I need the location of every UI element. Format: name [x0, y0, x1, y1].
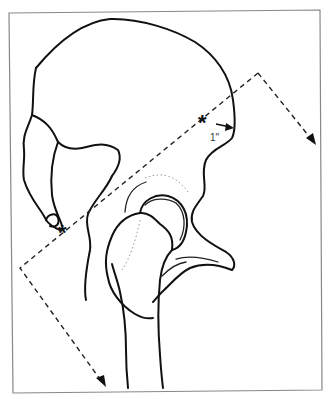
femoral-head-inner: [145, 199, 184, 240]
landmark-star-lower: *: [58, 220, 67, 245]
measurement-label: 1": [210, 132, 220, 143]
ischium-outline: [153, 265, 232, 302]
incision-dashed-branch: [258, 73, 312, 140]
obturator-line: [176, 257, 218, 262]
femoral-head-neck: [140, 213, 172, 250]
acetabulum-rim: [145, 175, 188, 192]
measurement-arrowhead: [225, 123, 234, 131]
femur-shaft-left: [112, 264, 128, 388]
sacroiliac-line: [32, 115, 120, 176]
intertrochanteric-line: [122, 220, 140, 270]
figure-frame: [9, 10, 322, 393]
anatomical-diagram: 1" * *: [0, 0, 334, 399]
landmark-star-upper: *: [198, 110, 207, 135]
acetabulum-arc: [125, 182, 146, 212]
femur-shaft-right: [159, 250, 173, 388]
arrowhead-right: [306, 133, 316, 145]
coccyx-outline: [46, 214, 59, 226]
